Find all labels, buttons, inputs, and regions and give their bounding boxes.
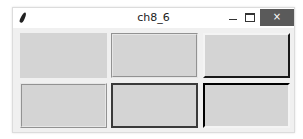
- frame-sunken: [203, 83, 290, 128]
- frame-raised: [203, 33, 290, 78]
- title-bar[interactable]: ch8_6 ×: [13, 8, 294, 28]
- maximize-icon: [245, 13, 255, 22]
- frame-solid: [111, 83, 198, 128]
- minimize-icon: [229, 19, 237, 20]
- frame-flat: [20, 33, 107, 78]
- close-icon: ×: [273, 11, 281, 22]
- app-window: ch8_6 ×: [12, 7, 295, 133]
- frame-groove: [111, 33, 198, 78]
- frame-ridge: [20, 83, 107, 128]
- close-button[interactable]: ×: [260, 9, 294, 26]
- maximize-button[interactable]: [243, 8, 257, 26]
- minimize-button[interactable]: [226, 8, 240, 26]
